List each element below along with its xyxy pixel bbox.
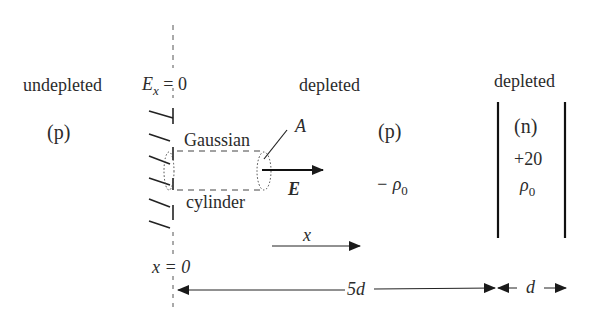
label-rho0-n: ρ0	[520, 176, 535, 198]
label-rho-symbol: ρ	[520, 175, 529, 195]
label-x-equals-zero: x = 0	[152, 258, 190, 276]
label-x-axis: x	[303, 226, 311, 244]
area-pointer	[264, 130, 287, 159]
label-undepleted: undepleted	[23, 76, 102, 94]
label-field-e: E	[288, 180, 300, 198]
hatched-boundary	[149, 108, 173, 228]
label-ex-symbol: E	[142, 74, 153, 94]
label-depleted-p: depleted	[299, 76, 360, 94]
label-depleted-n: depleted	[494, 72, 555, 90]
label-right-n: (n)	[514, 116, 537, 136]
gaussian-cylinder	[164, 151, 271, 190]
label-plus-20: +20	[514, 150, 542, 168]
label-neg-rho-subscript: 0	[401, 183, 408, 198]
label-left-p: (p)	[47, 122, 70, 142]
label-neg-rho-symbol: − ρ	[376, 174, 401, 194]
label-cylinder: cylinder	[186, 193, 245, 211]
label-ex-value: = 0	[159, 74, 187, 94]
label-gaussian: Gaussian	[184, 131, 250, 149]
label-neg-rho0: − ρ0	[376, 175, 408, 197]
dimension-5d	[178, 288, 495, 290]
label-mid-p: (p)	[378, 121, 401, 141]
label-rho-subscript: 0	[529, 184, 536, 199]
label-area-a: A	[295, 117, 306, 135]
label-5d: 5d	[347, 280, 365, 298]
diagram-canvas	[0, 0, 598, 329]
label-d: d	[526, 278, 535, 296]
label-ex-zero: Ex = 0	[142, 75, 187, 97]
